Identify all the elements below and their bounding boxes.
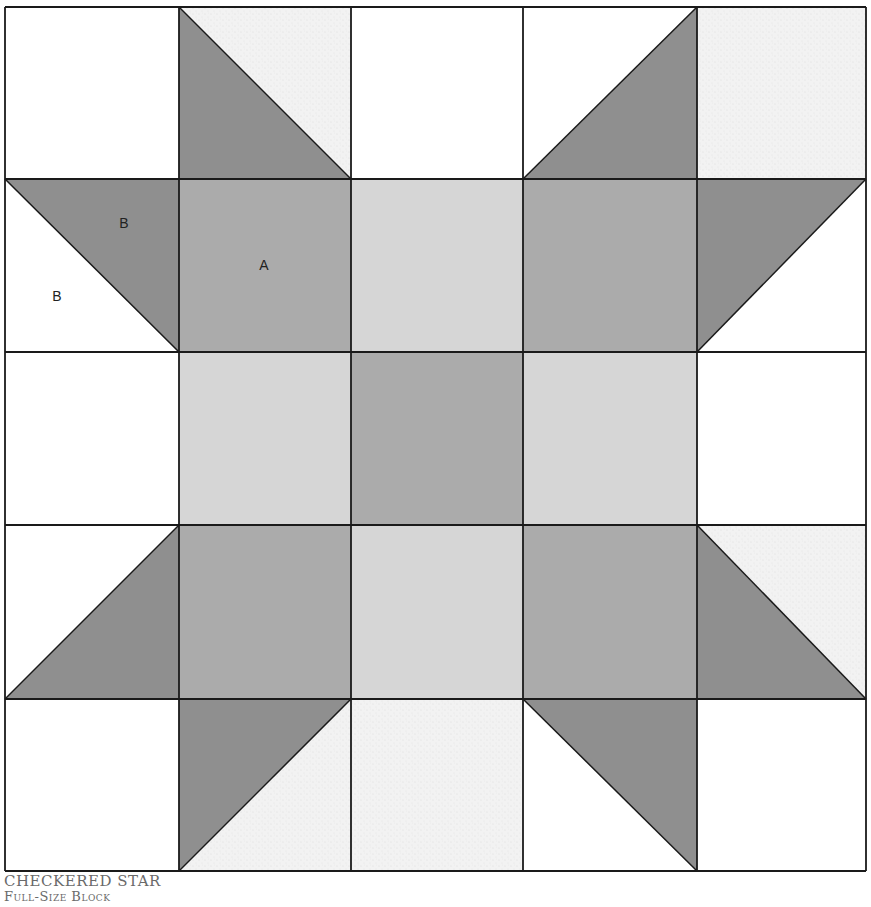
square-patch	[179, 525, 351, 699]
piece-label: A	[259, 257, 269, 273]
block-cells	[5, 7, 866, 871]
quilt-block-diagram: BBA	[0, 0, 871, 875]
square-patch	[523, 179, 697, 352]
square-patch	[351, 525, 523, 699]
square-patch	[523, 525, 697, 699]
square-patch	[5, 699, 179, 871]
block-title: Checkered Star	[4, 874, 161, 889]
square-patch	[697, 699, 866, 871]
caption: Checkered Star Full-Size Block	[4, 874, 161, 903]
square-patch	[5, 7, 179, 179]
square-patch	[697, 352, 866, 525]
block-subtitle: Full-Size Block	[4, 890, 161, 903]
square-patch	[697, 7, 866, 179]
square-patch	[351, 699, 523, 871]
square-patch	[351, 352, 523, 525]
piece-label: B	[119, 215, 128, 231]
square-patch	[5, 352, 179, 525]
square-patch	[351, 7, 523, 179]
square-patch	[523, 352, 697, 525]
piece-label: B	[52, 288, 61, 304]
square-patch	[179, 352, 351, 525]
square-patch	[351, 179, 523, 352]
